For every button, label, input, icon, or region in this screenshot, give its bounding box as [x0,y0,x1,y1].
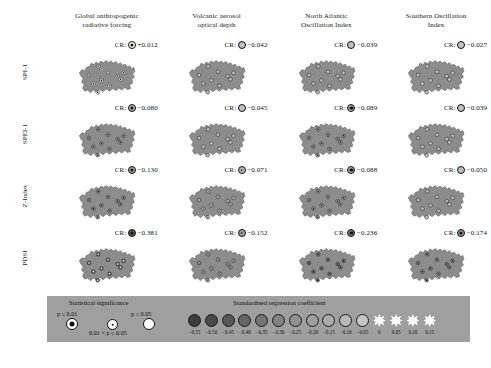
station-marker[interactable] [100,141,104,145]
station-marker[interactable] [335,137,339,141]
station-marker[interactable] [108,146,112,150]
station-marker[interactable] [106,132,110,136]
station-marker[interactable] [92,144,96,148]
station-marker[interactable] [87,136,91,140]
station-marker[interactable] [326,132,330,136]
station-marker[interactable] [106,195,110,199]
station-marker[interactable] [315,90,319,94]
station-marker[interactable] [108,209,112,213]
station-marker[interactable] [421,269,425,273]
station-marker[interactable] [326,70,330,74]
station-marker[interactable] [122,71,126,75]
station-marker[interactable] [435,70,439,74]
station-marker[interactable] [206,215,210,219]
station-marker[interactable] [327,271,331,275]
station-marker[interactable] [341,134,345,138]
station-marker[interactable] [327,209,331,213]
station-marker[interactable] [96,252,100,256]
map-panel[interactable]: CR:−0.130 [52,165,162,228]
station-marker[interactable] [96,215,100,219]
station-marker[interactable] [209,266,213,270]
map-panel[interactable]: CR:−0.050 [381,165,491,228]
station-marker[interactable] [96,190,100,194]
station-marker[interactable] [206,153,210,157]
map-panel[interactable]: CR:−0.039 [272,40,382,103]
station-marker[interactable] [451,134,455,138]
station-marker[interactable] [435,195,439,199]
station-marker[interactable] [92,82,96,86]
station-marker[interactable] [209,204,213,208]
station-marker[interactable] [307,136,311,140]
station-marker[interactable] [96,278,100,282]
station-marker[interactable] [108,84,112,88]
station-marker[interactable] [437,271,441,275]
station-marker[interactable] [448,77,452,81]
station-marker[interactable] [421,144,425,148]
station-marker[interactable] [96,90,100,94]
station-marker[interactable] [96,127,100,131]
station-marker[interactable] [416,261,420,265]
station-marker[interactable] [217,271,221,275]
station-marker[interactable] [232,134,236,138]
station-marker[interactable] [206,127,210,131]
station-marker[interactable] [209,141,213,145]
station-marker[interactable] [338,265,342,269]
station-marker[interactable] [100,266,104,270]
station-marker[interactable] [106,70,110,74]
station-marker[interactable] [338,77,342,81]
station-marker[interactable] [92,269,96,273]
station-marker[interactable] [326,257,330,261]
map-panel[interactable]: CR:−0.080 [52,103,162,166]
station-marker[interactable] [232,259,236,263]
station-marker[interactable] [100,79,104,83]
station-marker[interactable] [448,265,452,269]
station-marker[interactable] [116,199,120,203]
station-marker[interactable] [437,209,441,213]
station-marker[interactable] [122,134,126,138]
station-marker[interactable] [232,71,236,75]
map-panel[interactable]: CR:−0.088 [272,165,382,228]
station-marker[interactable] [201,207,205,211]
station-marker[interactable] [307,198,311,202]
station-marker[interactable] [92,207,96,211]
station-marker[interactable] [451,259,455,263]
map-panel[interactable]: CR:−0.152 [162,228,272,291]
station-marker[interactable] [319,141,323,145]
station-marker[interactable] [335,74,339,78]
station-marker[interactable] [119,140,123,144]
station-marker[interactable] [87,198,91,202]
station-marker[interactable] [425,90,429,94]
station-marker[interactable] [216,195,220,199]
station-marker[interactable] [311,144,315,148]
station-marker[interactable] [425,278,429,282]
station-marker[interactable] [451,71,455,75]
station-marker[interactable] [327,146,331,150]
station-marker[interactable] [435,257,439,261]
station-marker[interactable] [197,73,201,77]
station-marker[interactable] [429,141,433,145]
station-marker[interactable] [445,74,449,78]
station-marker[interactable] [426,190,430,194]
map-panel[interactable]: CR:−0.236 [272,228,382,291]
station-marker[interactable] [116,262,120,266]
station-marker[interactable] [429,204,433,208]
station-marker[interactable] [425,215,429,219]
station-marker[interactable] [116,74,120,78]
station-marker[interactable] [426,65,430,69]
station-marker[interactable] [197,198,201,202]
station-marker[interactable] [206,252,210,256]
station-marker[interactable] [228,140,232,144]
station-marker[interactable] [451,196,455,200]
map-panel[interactable]: CR:−0.039 [381,103,491,166]
station-marker[interactable] [416,198,420,202]
station-marker[interactable] [228,77,232,81]
station-marker[interactable] [327,84,331,88]
station-marker[interactable] [100,204,104,208]
map-panel[interactable]: CR:−0.027 [381,40,491,103]
station-marker[interactable] [341,259,345,263]
station-marker[interactable] [119,77,123,81]
station-marker[interactable] [416,73,420,77]
station-marker[interactable] [311,207,315,211]
station-marker[interactable] [319,79,323,83]
station-marker[interactable] [119,265,123,269]
